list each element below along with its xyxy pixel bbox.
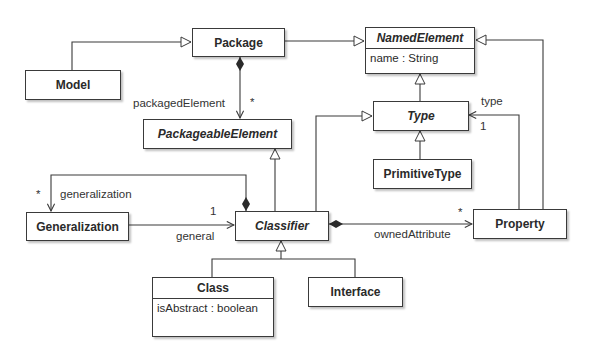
edge-classifier-type [316, 116, 372, 211]
class-box-model[interactable]: Model [25, 70, 121, 100]
mult-packaged-element: * [250, 96, 254, 108]
class-name: Generalization [27, 213, 128, 240]
diagram-edges [0, 0, 592, 363]
class-box-namedelement[interactable]: NamedElement name : String [365, 27, 475, 74]
mult-type: 1 [480, 120, 486, 132]
class-box-classifier[interactable]: Classifier [235, 211, 329, 241]
mult-owned-attribute: * [458, 206, 462, 218]
class-box-type[interactable]: Type [373, 101, 469, 131]
edge-class-classifier [212, 259, 355, 277]
class-box-property[interactable]: Property [473, 209, 567, 239]
role-general: general [176, 230, 214, 242]
class-name: PackageableElement [144, 120, 291, 148]
edge-property-type [469, 115, 519, 209]
class-box-packageableelement[interactable]: PackageableElement [143, 119, 292, 149]
role-packaged-element: packagedElement [133, 97, 225, 109]
class-box-primitivetype[interactable]: PrimitiveType [373, 159, 472, 189]
class-name: Class [153, 278, 273, 299]
class-box-package[interactable]: Package [192, 28, 285, 57]
class-name: Interface [309, 278, 402, 306]
class-name: Classifier [236, 212, 328, 240]
role-generalization: generalization [60, 188, 132, 200]
mult-general: 1 [210, 205, 216, 217]
role-type: type [481, 95, 503, 107]
class-name: PrimitiveType [374, 160, 471, 188]
class-name: Model [26, 71, 120, 99]
class-box-class[interactable]: Class isAbstract : boolean [152, 277, 274, 337]
class-name: Property [474, 210, 566, 238]
class-attribute: name : String [366, 49, 474, 67]
class-box-interface[interactable]: Interface [308, 277, 403, 307]
class-name: Type [374, 102, 468, 130]
class-box-generalization[interactable]: Generalization [26, 212, 129, 241]
role-owned-attribute: ownedAttribute [374, 228, 451, 240]
edge-model-package [72, 42, 191, 70]
class-attribute: isAbstract : boolean [153, 299, 273, 317]
class-name: Package [193, 29, 284, 56]
mult-generalization: * [36, 188, 40, 200]
class-name: NamedElement [366, 28, 474, 49]
